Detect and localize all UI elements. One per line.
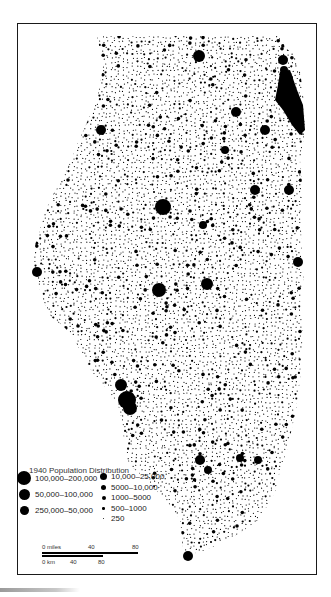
scale-km-bar — [42, 555, 103, 557]
city-dot — [284, 185, 294, 195]
legend-dot-icon — [102, 507, 105, 510]
city-dot — [221, 146, 229, 154]
legend-dot-icon — [103, 518, 105, 520]
city-dot — [278, 55, 288, 65]
legend-dot-icon — [20, 506, 29, 515]
legend-label: 10,000–25,000 — [111, 472, 164, 481]
scale-miles-tick-80: 80 — [132, 544, 139, 550]
legend-dot-icon — [17, 471, 31, 485]
legend-dot-icon — [101, 485, 106, 490]
legend-label: 5000–10,000 — [111, 483, 158, 492]
city-dot — [183, 551, 193, 561]
legend-item: 500–1000 — [102, 504, 146, 513]
city-dot — [254, 456, 262, 464]
scale-km-tick-40: 40 — [70, 559, 77, 565]
legend-item: 1000–5000 — [102, 493, 152, 502]
legend-item: 250,000–50,000 — [20, 506, 93, 515]
scale-km-tick-80: 80 — [98, 559, 105, 565]
city-dot — [32, 267, 42, 277]
legend-label: 100,000–200,000 — [35, 474, 97, 483]
city-dot — [250, 185, 260, 195]
city-dot — [96, 125, 106, 135]
bottom-gradient-bar — [0, 588, 80, 592]
legend-item: 250 — [103, 514, 125, 523]
city-dot — [195, 455, 205, 465]
legend-label: 50,000–100,000 — [35, 490, 93, 499]
scale-miles-bar — [42, 552, 138, 554]
scale-miles-label: 0 miles — [42, 544, 61, 550]
city-dot — [201, 278, 213, 290]
legend-label: 500–1000 — [111, 504, 147, 513]
city-dot — [199, 221, 207, 229]
scale-miles-tick-40: 40 — [88, 544, 95, 550]
city-dot — [155, 199, 171, 215]
legend-item: 50,000–100,000 — [19, 489, 93, 500]
legend-item: 100,000–200,000 — [17, 471, 97, 485]
legend-dot-icon — [19, 489, 30, 500]
city-dot — [204, 466, 212, 474]
city-dot — [293, 257, 303, 267]
legend-item: 5000–10,000 — [101, 483, 158, 492]
city-dot — [152, 283, 166, 297]
legend-dot-icon — [100, 473, 107, 480]
legend-label: 250 — [111, 514, 124, 523]
city-dot — [115, 379, 127, 391]
legend-dot-icon — [102, 496, 106, 500]
city-dot — [260, 125, 270, 135]
legend-label: 250,000–50,000 — [35, 506, 93, 515]
city-dot — [123, 401, 137, 415]
city-dot — [193, 50, 205, 62]
city-dot — [231, 107, 241, 117]
legend-label: 1000–5000 — [111, 493, 151, 502]
city-dot — [236, 454, 244, 462]
legend-item: 10,000–25,000 — [100, 472, 164, 481]
scale-km-label: 0 km — [42, 559, 55, 565]
